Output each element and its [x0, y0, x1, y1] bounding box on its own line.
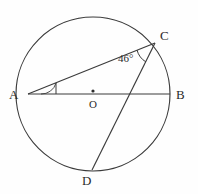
point-label-B: B — [176, 88, 185, 101]
geometry-figure: A B C D O 46° — [0, 0, 198, 194]
segment-chord-AC — [28, 43, 155, 94]
angle-arc-at-A — [41, 83, 56, 94]
angle-value-at-C: 46° — [118, 53, 133, 64]
angle-arc-at-C — [137, 50, 146, 62]
center-point-dot — [91, 89, 94, 92]
center-label-O: O — [89, 99, 97, 110]
point-label-C: C — [160, 29, 169, 42]
point-label-D: D — [82, 174, 91, 187]
point-label-A: A — [9, 88, 18, 101]
